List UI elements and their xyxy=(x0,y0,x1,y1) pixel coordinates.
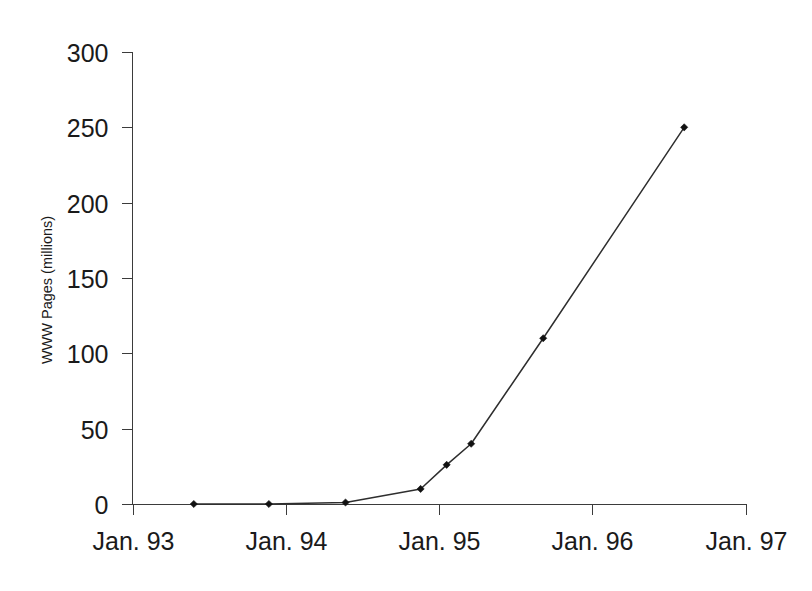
www-pages-line-chart: 050100150200250300 WWW Pages (millions) … xyxy=(0,0,812,591)
x-axis-tick-label: Jan. 96 xyxy=(551,527,633,555)
y-axis-tick-label: 250 xyxy=(67,114,109,142)
chart-container: 050100150200250300 WWW Pages (millions) … xyxy=(0,0,812,591)
chart-background xyxy=(0,0,812,591)
x-axis-tick-label: Jan. 95 xyxy=(398,527,480,555)
y-axis-title: WWW Pages (millions) xyxy=(39,216,55,364)
y-axis-tick-label: 150 xyxy=(67,265,109,293)
x-axis-tick-label: Jan. 93 xyxy=(92,527,174,555)
y-axis-tick-label: 300 xyxy=(67,39,109,67)
x-axis-tick-label: Jan. 97 xyxy=(705,527,787,555)
y-axis-tick-label: 100 xyxy=(67,340,109,368)
y-axis-tick-label: 0 xyxy=(95,491,109,519)
y-axis-tick-label: 200 xyxy=(67,190,109,218)
y-axis-tick-label: 50 xyxy=(81,416,109,444)
x-axis-tick-label: Jan. 94 xyxy=(245,527,327,555)
